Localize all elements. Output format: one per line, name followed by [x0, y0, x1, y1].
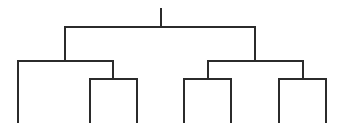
background [0, 0, 343, 131]
dendrogram [0, 0, 343, 131]
